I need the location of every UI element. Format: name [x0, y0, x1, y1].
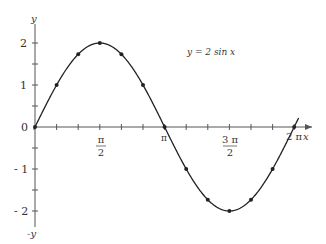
- x-tick-label-pi-half-num: π: [98, 134, 105, 145]
- x-tick-label-3pi-half-den: 2: [227, 147, 233, 158]
- equation-label: y = 2 sin x: [186, 47, 235, 57]
- data-point: [163, 125, 167, 129]
- y-axis-neg-label: -y: [27, 228, 36, 239]
- data-point: [76, 52, 80, 56]
- data-point: [206, 198, 210, 202]
- origin-label: 0: [21, 121, 28, 134]
- x-tick-label-3pi-half-num: 3 π: [222, 134, 239, 145]
- x-axis-label: x: [303, 131, 309, 142]
- x-tick-label-pi: π: [161, 133, 167, 143]
- y-tick-label-1: 1: [20, 79, 27, 92]
- data-point: [98, 41, 102, 45]
- x-tick-label-2pi: 2 π: [286, 131, 303, 142]
- data-point: [141, 83, 145, 87]
- y-axis-label: y: [30, 13, 37, 24]
- data-point: [33, 125, 37, 129]
- data-point: [249, 198, 253, 202]
- sine-chart: y -y 2 1 0 - 1 - 2 π 2 π 3 π 2 2 π x y =…: [0, 0, 326, 244]
- y-tick-label-neg1: - 1: [14, 163, 28, 176]
- y-tick-label-neg2: - 2: [14, 205, 28, 218]
- data-point: [119, 52, 123, 56]
- y-tick-label-2: 2: [20, 37, 27, 50]
- data-point: [271, 167, 275, 171]
- x-tick-label-pi-half-den: 2: [98, 147, 104, 158]
- data-point: [227, 209, 231, 213]
- data-point: [55, 83, 59, 87]
- x-axis-arrow-icon: [305, 124, 312, 130]
- data-point: [184, 167, 188, 171]
- data-point: [292, 125, 296, 129]
